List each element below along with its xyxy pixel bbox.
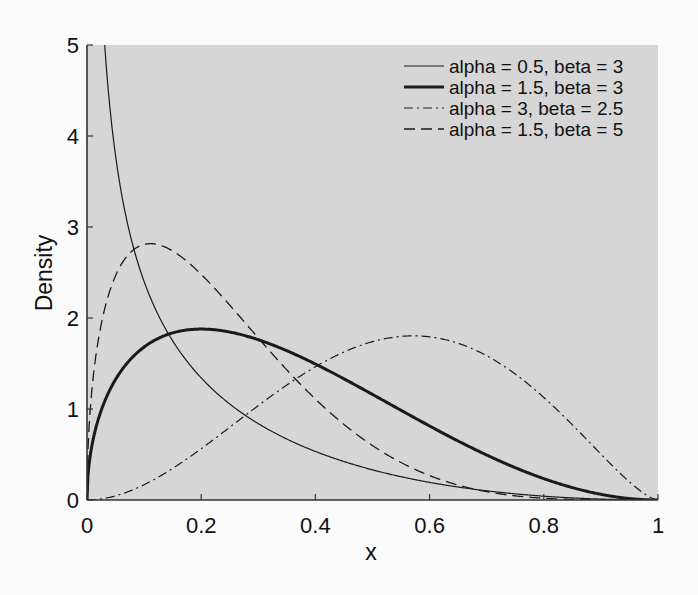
y-axis-label: Density	[31, 234, 57, 311]
legend-label: alpha = 3, beta = 2.5	[449, 98, 623, 119]
x-tick-label: 0.8	[529, 513, 560, 538]
x-axis-label: x	[365, 539, 377, 565]
y-tick-label: 0	[67, 488, 79, 513]
beta-density-chart: 00.20.40.60.81 012345 x Density alpha = …	[0, 0, 698, 595]
y-tick-label: 4	[67, 124, 79, 149]
y-tick-label: 1	[67, 397, 79, 422]
legend-label: alpha = 1.5, beta = 3	[449, 77, 623, 98]
legend-label: alpha = 0.5, beta = 3	[449, 56, 623, 77]
x-tick-label: 1	[652, 513, 664, 538]
x-tick-label: 0.4	[300, 513, 331, 538]
y-tick-label: 3	[67, 215, 79, 240]
legend-label: alpha = 1.5, beta = 5	[449, 119, 623, 140]
y-tick-label: 2	[67, 306, 79, 331]
y-tick-label: 5	[67, 33, 79, 58]
x-tick-label: 0.6	[414, 513, 445, 538]
x-tick-label: 0.2	[186, 513, 217, 538]
x-tick-label: 0	[81, 513, 93, 538]
